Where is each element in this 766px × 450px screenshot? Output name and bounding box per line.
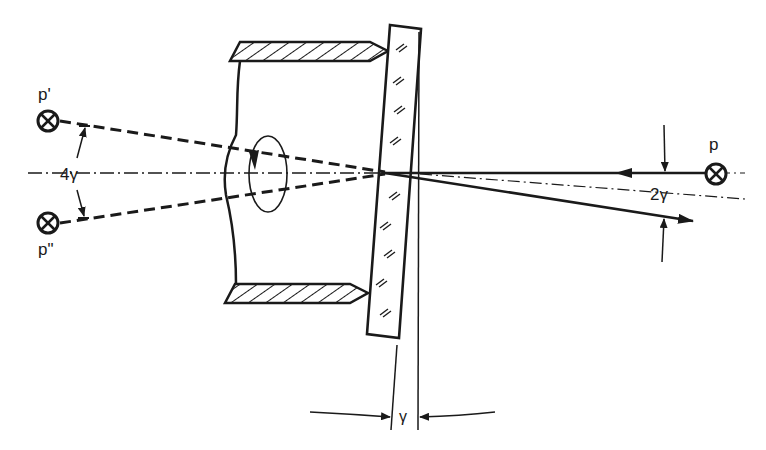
label-2gamma: 2γ bbox=[650, 185, 668, 204]
reflected-rays-dashed bbox=[60, 121, 385, 223]
dimension-4gamma bbox=[77, 126, 90, 218]
point-source-p-prime bbox=[38, 111, 58, 131]
autocollimation-diagram: p' p" p 4γ 2γ γ bbox=[0, 0, 766, 450]
point-source-p bbox=[706, 164, 726, 184]
label-p: p bbox=[709, 135, 718, 154]
tilted-mirror bbox=[367, 25, 421, 338]
rotation-symbol bbox=[249, 136, 287, 212]
label-p-double-prime: p" bbox=[38, 240, 54, 259]
mirror-tilt-extension bbox=[391, 345, 397, 430]
label-4gamma: 4γ bbox=[60, 165, 78, 184]
label-gamma: γ bbox=[399, 408, 407, 425]
point-source-p-double-prime bbox=[38, 213, 58, 233]
incident-ray-arrow bbox=[615, 168, 632, 178]
reflected-ray bbox=[385, 173, 693, 221]
mirror-reference-line bbox=[418, 32, 419, 430]
label-p-prime: p' bbox=[38, 85, 51, 104]
